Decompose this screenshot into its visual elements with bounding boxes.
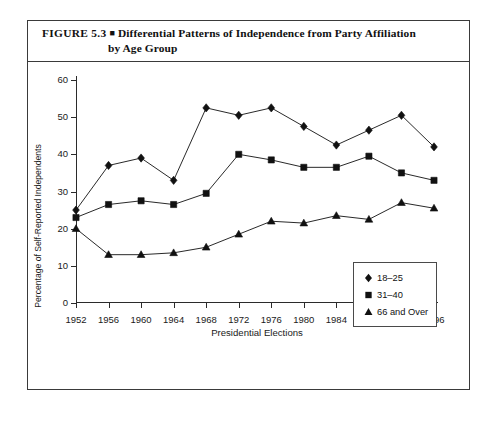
series-line [76, 154, 434, 217]
y-tick-label: 0 [63, 298, 68, 308]
data-point-marker [333, 212, 341, 219]
y-tick-label: 30 [57, 187, 68, 197]
y-tick-label: 50 [57, 112, 68, 122]
x-tick-label: 1952 [65, 315, 86, 325]
x-tick-label: 1964 [163, 315, 184, 325]
data-series [73, 151, 437, 220]
figure-frame: FIGURE 5.3■Differential Patterns of Inde… [27, 20, 470, 390]
data-point-marker [203, 190, 209, 196]
y-tick-label: 40 [57, 150, 68, 160]
data-point-marker [171, 201, 177, 207]
x-tick-label: 1968 [196, 315, 217, 325]
data-point-marker [333, 141, 340, 149]
data-point-marker [431, 177, 437, 183]
data-point-marker [268, 157, 274, 163]
data-point-marker [268, 104, 275, 112]
legend-item: 31–40 [354, 286, 436, 303]
data-point-marker [301, 164, 307, 170]
data-point-marker [235, 111, 242, 119]
data-point-marker [398, 199, 406, 206]
y-tick-label: 60 [57, 75, 68, 85]
legend-label: 18–25 [377, 273, 403, 283]
data-point-marker [105, 201, 111, 207]
figure-number: FIGURE 5.3 [42, 27, 106, 39]
data-point-marker [236, 151, 242, 157]
triangle-icon [363, 307, 377, 316]
data-series [72, 199, 438, 258]
data-series [73, 104, 438, 214]
data-point-marker [300, 122, 307, 130]
legend-item: 66 and Over [354, 303, 436, 320]
x-tick-label: 1972 [228, 315, 249, 325]
data-point-marker [105, 251, 113, 258]
x-tick-label: 1984 [326, 315, 347, 325]
series-line [76, 108, 434, 210]
bullet-icon: ■ [106, 28, 118, 38]
data-point-marker [235, 230, 243, 237]
legend-label: 66 and Over [377, 307, 428, 317]
data-point-marker [366, 153, 372, 159]
figure-title-line-1: Differential Patterns of Independence fr… [118, 27, 416, 39]
x-tick-label: 1960 [131, 315, 152, 325]
data-point-marker [138, 198, 144, 204]
figure-title-line-2: by Age Group [42, 41, 459, 56]
square-icon [363, 290, 377, 299]
data-point-marker [398, 170, 404, 176]
diamond-icon [363, 273, 377, 282]
figure-title: FIGURE 5.3■Differential Patterns of Inde… [42, 26, 459, 56]
data-point-marker [203, 104, 210, 112]
data-point-marker [170, 176, 177, 184]
legend-item: 18–25 [354, 269, 436, 286]
x-axis-label: Presidential Elections [76, 327, 438, 338]
chart-legend: 18–2531–4066 and Over [353, 262, 437, 327]
y-axis-label: Percentage of Self-Reported Independents [33, 144, 43, 307]
data-point-marker [202, 243, 210, 250]
data-point-marker [73, 214, 79, 220]
figure-title-band: FIGURE 5.3■Differential Patterns of Inde… [28, 21, 469, 62]
data-point-marker [138, 154, 145, 162]
plot-area: Percentage of Self-Reported Independents… [28, 62, 469, 389]
y-tick-label: 20 [57, 224, 68, 234]
data-point-marker [366, 126, 373, 134]
x-tick-label: 1956 [98, 315, 119, 325]
data-point-marker [267, 217, 275, 224]
x-tick-label: 1976 [261, 315, 282, 325]
legend-label: 31–40 [377, 290, 403, 300]
x-tick-label: 1980 [293, 315, 314, 325]
series-line [76, 203, 434, 255]
data-point-marker [333, 164, 339, 170]
y-tick-label: 10 [57, 261, 68, 271]
